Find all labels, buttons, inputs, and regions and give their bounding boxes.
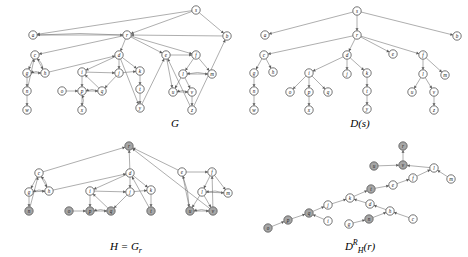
node-G-q: q [98,87,106,95]
panel-graph-G: sarbcdefghijklmnopqtuvwxyz [0,0,238,120]
arrowhead-i-p [81,84,84,87]
edge-d-k [122,58,136,69]
node-DHr-o: o [264,224,272,232]
caption-Ds-text: D(s) [350,117,370,129]
arrowhead-s-r [356,28,359,31]
node-H-q: q [107,207,115,215]
node-Ds-x: x [305,106,313,114]
edge-r-c [268,36,353,54]
node-Ds-b: b [453,32,461,40]
caption-DHr: DRH(r) [345,238,375,255]
panel-graph-H: rcdefghijklmnopqtuv [6,132,238,232]
node-H-e: e [178,168,186,176]
node-label: u [373,163,376,169]
node-DHr-n: n [365,215,373,223]
edge-d-i [313,57,343,71]
edge-e-u [167,59,172,88]
edge-y-e [142,59,164,104]
node-DHr-j: j [324,201,332,209]
node-G-x: x [78,106,86,114]
arrowhead-i-j [123,190,126,193]
arrowhead-d-j [118,66,121,69]
node-H-t: t [147,207,155,215]
node-G-a: a [29,31,37,39]
node-G-d: d [115,51,123,59]
node-DHr-d: d [366,200,374,208]
arrowhead-o-p [75,90,78,93]
node-DHr-p: p [284,216,292,224]
node-label: g [26,70,29,76]
node-G-u: u [169,88,177,96]
arrowhead-e-u [170,85,173,88]
node-label: u [411,89,414,95]
node-DHr-f: f [409,174,417,182]
node-G-v: v [188,88,196,96]
edge-q-i [85,75,99,88]
node-label: z [432,107,435,113]
edge-s-a [269,12,353,34]
edge-d-y [121,59,139,104]
node-G-r: r [123,31,131,39]
arrowhead-n-w [253,103,256,106]
node-G-w: w [23,106,31,114]
arrowhead-f-l [185,68,188,71]
edge-i-o [293,76,306,89]
node-Ds-a: a [261,31,269,39]
node-H-p: p [86,207,94,215]
node-label: d [346,52,349,58]
node-Ds-y: y [363,105,371,113]
edge-v-r [132,149,209,209]
node-DHr-r: r [399,142,407,150]
arrowhead-o-p [83,210,86,213]
node-Ds-d: d [343,51,351,59]
arrowhead-v-r [402,150,405,153]
arrowhead-f-l [422,67,425,70]
node-H-k: k [147,186,155,194]
node-label: h [389,208,392,214]
node-Ds-q: q [324,88,332,96]
arrowhead-g-n [253,84,256,87]
arrowhead-v-f [211,176,214,179]
caption-Ds: D(s) [350,117,370,129]
edge-layer [272,150,448,226]
node-label: s [195,7,197,13]
node-Ds-k: k [363,69,371,77]
edge-l-v [407,165,430,167]
node-label: g [348,221,351,227]
node-DHr-q: q [305,209,313,217]
arrowhead-m-l [187,72,190,75]
node-G-l: l [179,70,187,78]
edge-s-b [199,13,224,34]
node-label: p [307,89,311,95]
node-label: q [101,88,104,94]
edge-s-b [361,12,453,35]
edge-r-f [131,36,192,54]
edge-r-e [131,37,163,53]
node-H-m: m [224,189,232,197]
node-H-u: u [186,207,194,215]
arrowhead-j-k [133,70,136,73]
node-H-d: d [126,169,134,177]
node-label: n [28,208,31,214]
arrowhead-i-p [89,204,92,207]
edge-i-q [312,76,325,89]
node-H-c: c [35,169,43,177]
node-G-o: o [58,87,66,95]
arrowhead-u-v [396,164,399,167]
node-label: n [368,216,371,222]
node-DHr-i: i [324,217,332,225]
caption-DHr-main: D [345,240,353,252]
node-DHr-m: m [447,175,455,183]
node-label: h [48,188,51,194]
node-label: p [80,88,84,94]
node-label: a [264,32,267,38]
arrowhead-d-r [128,150,131,153]
arrowhead-r-f [416,52,419,55]
node-DHr-g: g [345,220,353,228]
node-label: d [129,170,132,176]
arrowhead-k-t [366,84,369,87]
node-H-l: l [198,188,206,196]
arrowhead-t-y [366,102,369,105]
node-label: b [456,33,459,39]
edge-d-k [133,176,147,188]
